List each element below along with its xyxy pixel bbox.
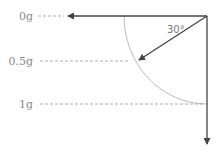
label-0.5g: 0.5g <box>8 55 33 68</box>
label-1g: 1g <box>19 98 33 111</box>
gravity-angle-diagram: 0g 0.5g 1g 30° <box>0 0 221 153</box>
label-0g: 0g <box>19 10 33 23</box>
quarter-arc <box>124 16 207 104</box>
diagonal-arrow <box>139 16 207 60</box>
angle-label: 30° <box>167 24 185 35</box>
